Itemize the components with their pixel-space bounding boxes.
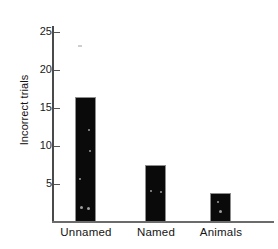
y-tick-mark-15 [54, 108, 60, 109]
y-tick-mark-10 [54, 146, 60, 147]
bar-chart-figure: Incorrect trials 25 20 15 10 5 [0, 0, 278, 249]
bar-noise-speck [217, 201, 219, 203]
bar-noise-speck [219, 210, 222, 213]
bar-noise-speck [160, 191, 162, 193]
bar-animals [210, 193, 231, 222]
bar-noise-speck [87, 207, 90, 210]
bar-noise-speck [79, 178, 81, 180]
y-axis-line [52, 26, 54, 223]
y-tick-label-5: 5 [30, 178, 52, 189]
y-tick-10: 10 [0, 146, 52, 147]
y-tick-mark-25 [54, 32, 60, 33]
y-tick-15: 15 [0, 108, 52, 109]
y-tick-mark-20 [54, 70, 60, 71]
x-axis-label-unnamed: Unnamed [50, 226, 122, 238]
x-axis-line [52, 221, 274, 223]
y-axis-title: Incorrect trials [18, 50, 30, 170]
bar-noise-speck [80, 206, 83, 209]
bar-noise-speck [89, 150, 91, 152]
bar-unnamed [75, 97, 96, 222]
y-tick-label-15: 15 [30, 102, 52, 113]
y-tick-label-10: 10 [30, 140, 52, 151]
y-tick-mark-5 [54, 184, 60, 185]
y-tick-20: 20 [0, 70, 52, 71]
y-tick-label-25: 25 [30, 26, 52, 37]
bar-noise-speck [88, 129, 90, 131]
y-tick-25: 25 [0, 32, 52, 33]
bar-named [145, 165, 166, 222]
x-axis-label-animals: Animals [188, 226, 254, 238]
bar-noise-speck [150, 190, 152, 192]
y-tick-label-20: 20 [30, 64, 52, 75]
x-axis-label-named: Named [123, 226, 189, 238]
y-tick-5: 5 [0, 184, 52, 185]
scan-artifact-speck [78, 45, 82, 47]
